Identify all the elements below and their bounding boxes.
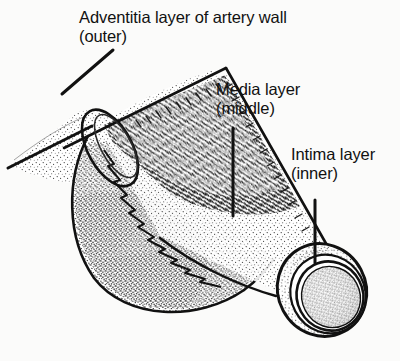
label-adventitia-line1: Adventitia layer of artery wall bbox=[79, 8, 287, 26]
label-media-line2: (middle) bbox=[216, 99, 300, 118]
label-intima: Intima layer (inner) bbox=[291, 145, 375, 183]
label-adventitia-line2: (outer) bbox=[79, 27, 287, 46]
adventitia-leader bbox=[62, 50, 113, 94]
label-media-line1: Media layer bbox=[216, 80, 300, 98]
label-media: Media layer (middle) bbox=[216, 80, 300, 118]
figure-canvas: Adventitia layer of artery wall (outer) … bbox=[0, 0, 400, 361]
label-adventitia: Adventitia layer of artery wall (outer) bbox=[79, 8, 287, 46]
label-intima-line2: (inner) bbox=[291, 164, 375, 183]
label-intima-line1: Intima layer bbox=[291, 145, 375, 163]
